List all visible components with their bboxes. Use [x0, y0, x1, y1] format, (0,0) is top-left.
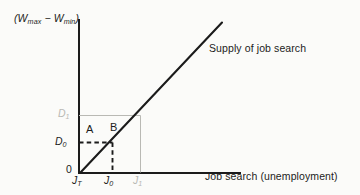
supply-of-job-search-line [80, 23, 222, 174]
x-tick-label-jt: JT [72, 175, 82, 186]
y-tick-label-d0: D0 [55, 136, 67, 147]
supply-curve-label: Supply of job search [209, 43, 306, 54]
x-axis-title: Job search (unemployment) [205, 171, 338, 182]
plot-lines-layer [0, 0, 360, 195]
y-tick-label-d1: D1 [58, 108, 70, 119]
point-a-label: A [86, 124, 93, 135]
y-axis-title: (Wmax − Wmin) [14, 13, 79, 24]
job-search-supply-figure: (Wmax − Wmin) Job search (unemployment) … [0, 0, 360, 195]
point-b-label: B [110, 122, 117, 133]
x-tick-label-j1: J1 [133, 175, 142, 186]
origin-label: 0 [66, 164, 72, 175]
x-tick-label-j0: J0 [104, 175, 113, 186]
